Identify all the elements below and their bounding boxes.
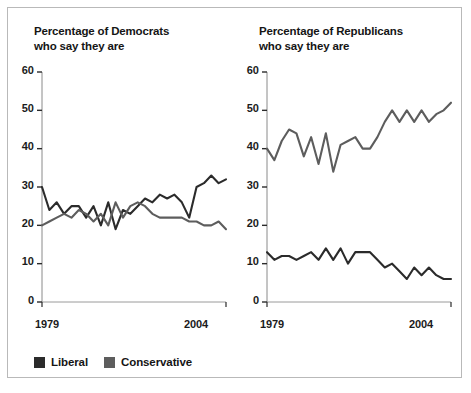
panel-democrats-title-line1: Percentage of Democrats: [34, 25, 169, 37]
democrats-line-chart: 0102030405060: [14, 64, 234, 314]
legend-label-conservative: Conservative: [121, 356, 192, 368]
republicans-y-axis: 0102030405060: [247, 64, 267, 306]
svg-text:30: 30: [247, 179, 259, 191]
chart-legend: Liberal Conservative: [34, 356, 192, 368]
svg-text:10: 10: [22, 255, 34, 267]
svg-text:50: 50: [247, 102, 259, 114]
legend-item-liberal: Liberal: [34, 356, 88, 368]
panel-democrats: Percentage of Democrats who say they are…: [14, 8, 234, 328]
chart-figure: Percentage of Democrats who say they are…: [7, 7, 462, 378]
panel-republicans-title: Percentage of Republicans who say they a…: [259, 24, 459, 54]
svg-text:50: 50: [22, 102, 34, 114]
svg-text:0: 0: [28, 294, 34, 306]
svg-text:20: 20: [247, 217, 259, 229]
republicans-xtick-end: 2004: [409, 318, 433, 330]
legend-label-liberal: Liberal: [51, 356, 88, 368]
democrats-y-axis: 0102030405060: [22, 64, 42, 306]
svg-text:20: 20: [22, 217, 34, 229]
svg-text:60: 60: [22, 64, 34, 76]
republicans-xtick-start: 1979: [260, 318, 284, 330]
republicans-line-chart: 0102030405060: [239, 64, 459, 314]
svg-text:40: 40: [247, 140, 259, 152]
plot-republicans: 0102030405060: [239, 64, 459, 314]
svg-text:30: 30: [22, 179, 34, 191]
republicans-x-axis: [267, 302, 451, 307]
legend-item-conservative: Conservative: [104, 356, 192, 368]
legend-swatch-conservative: [104, 357, 115, 368]
panel-republicans: Percentage of Republicans who say they a…: [239, 8, 459, 328]
panel-republicans-title-line1: Percentage of Republicans: [259, 25, 403, 37]
panel-democrats-title: Percentage of Democrats who say they are: [34, 24, 234, 54]
svg-text:60: 60: [247, 64, 259, 76]
svg-text:0: 0: [253, 294, 259, 306]
democrats-x-axis: [42, 302, 226, 307]
democrats-xtick-end: 2004: [184, 318, 208, 330]
republicans-series-lines: [267, 103, 451, 279]
panel-democrats-title-line2: who say they are: [34, 39, 234, 54]
svg-text:10: 10: [247, 255, 259, 267]
panel-republicans-title-line2: who say they are: [259, 39, 459, 54]
democrats-series-lines: [42, 176, 226, 230]
svg-text:40: 40: [22, 140, 34, 152]
plot-democrats: 0102030405060: [14, 64, 234, 314]
democrats-xtick-start: 1979: [35, 318, 59, 330]
legend-swatch-liberal: [34, 357, 45, 368]
